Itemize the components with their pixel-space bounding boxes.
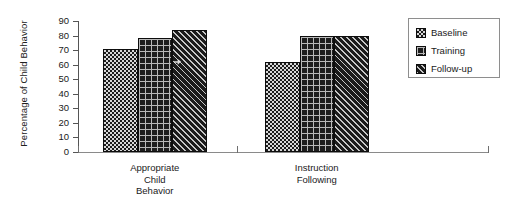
- legend: BaselineTrainingFollow-up: [408, 18, 500, 78]
- bar-follow-up-group-1: [172, 30, 207, 152]
- legend-item-training: Training: [416, 45, 465, 56]
- category-label-line: Behavior: [85, 185, 225, 197]
- x-axis-tick: [488, 146, 489, 153]
- bar-baseline-group-1: [103, 49, 138, 152]
- legend-item-label: Training: [431, 46, 465, 56]
- y-axis-tick-label: 40: [43, 89, 69, 99]
- y-axis-title: Percentage of Child Behavior: [18, 9, 29, 159]
- x-axis-line: [78, 152, 489, 153]
- legend-item-label: Follow-up: [431, 64, 472, 74]
- category-label-line: Appropriate: [85, 162, 225, 174]
- y-axis-tick-label: 30: [43, 103, 69, 113]
- bar-training-group-2: [300, 36, 335, 152]
- bar-baseline-group-2: [265, 62, 300, 152]
- y-axis-tick-label: 0: [43, 147, 69, 157]
- category-label-line: Instruction: [247, 162, 387, 174]
- y-axis-tick-label: 50: [43, 74, 69, 84]
- y-axis-tick-label: 70: [43, 45, 69, 55]
- y-axis-tick-label: 20: [43, 118, 69, 128]
- x-axis-tick: [237, 146, 238, 153]
- legend-swatch-icon: [416, 64, 426, 74]
- y-axis-tick-label: 80: [43, 31, 69, 41]
- category-label-line: Child: [85, 174, 225, 186]
- category-label-group-1: AppropriateChildBehavior: [85, 162, 225, 197]
- y-axis-tick-label: 10: [43, 132, 69, 142]
- bar-chart: Percentage of Child Behavior 01020304050…: [0, 0, 509, 210]
- legend-swatch-icon: [416, 28, 426, 38]
- bar-follow-up-group-2: [334, 36, 369, 152]
- category-label-line: Following: [247, 174, 387, 186]
- y-axis-tick-label: 90: [43, 16, 69, 26]
- bar-training-group-1: [138, 38, 173, 152]
- legend-swatch-icon: [416, 46, 426, 56]
- legend-item-label: Baseline: [431, 28, 467, 38]
- legend-item-follow-up: Follow-up: [416, 63, 472, 74]
- y-axis-tick-label: 60: [43, 60, 69, 70]
- x-axis-tick: [78, 146, 79, 153]
- legend-item-baseline: Baseline: [416, 27, 467, 38]
- category-label-group-2: InstructionFollowing: [247, 162, 387, 185]
